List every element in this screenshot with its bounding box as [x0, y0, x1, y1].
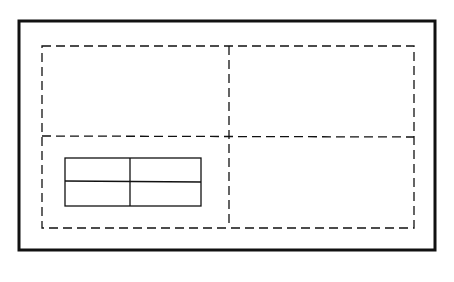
dashed-grid — [42, 46, 414, 228]
table — [65, 158, 201, 206]
layout-diagram — [0, 0, 454, 282]
table-horizontal-divider — [65, 181, 201, 182]
grid-horizontal-divider — [42, 136, 414, 137]
page-frame — [19, 21, 435, 250]
